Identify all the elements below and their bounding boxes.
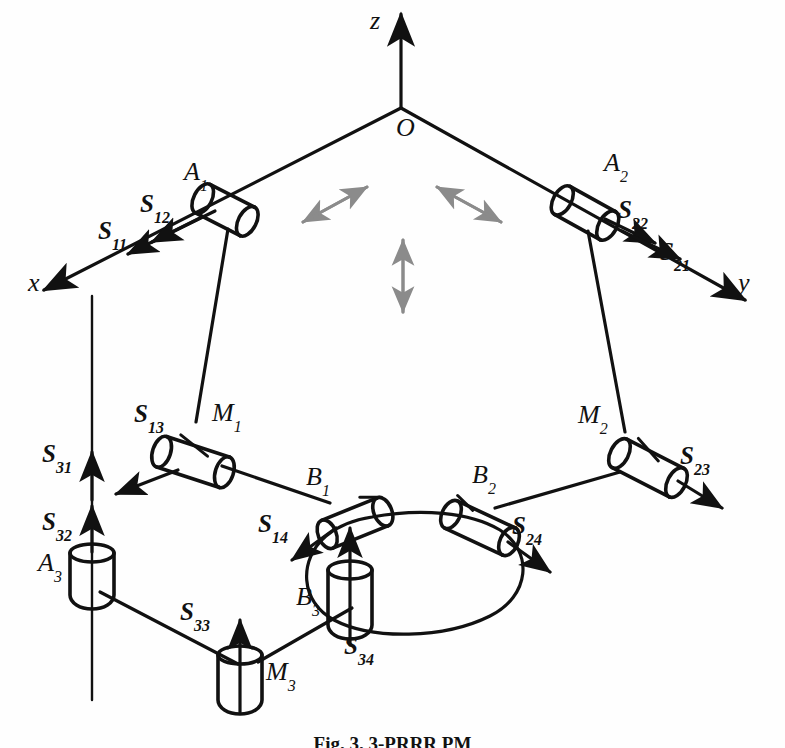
joint-label-a1: A1 — [184, 157, 208, 190]
screw-label-s23: S23 — [680, 442, 710, 474]
joint-label-b1: B1 — [306, 462, 330, 495]
joint-label-a2: A2 — [604, 148, 628, 181]
screw-label-s34: S34 — [344, 632, 374, 664]
screw-label-s31-sub: 31 — [56, 459, 72, 476]
joint-label-b1-base: B — [306, 462, 322, 491]
joint-label-m1-sub: 1 — [234, 418, 242, 435]
screw-label-s31: S31 — [42, 440, 72, 472]
joint-label-a1-base: A — [184, 157, 200, 186]
screw-label-s32-base: S — [42, 508, 56, 535]
joint-label-m3-base: M — [266, 657, 288, 686]
screw-label-s23-sub: 23 — [694, 461, 710, 478]
screw-label-s32-sub: 32 — [56, 527, 72, 544]
screw-label-s12: S12 — [140, 190, 170, 222]
screw-label-s13-base: S — [134, 400, 148, 427]
figure-3-prrr-pm: x y z O A1 A2 A3 M1 M2 M3 B1 B2 B3 S11 S… — [0, 0, 785, 748]
screw-label-s11-base: S — [98, 217, 112, 244]
link-a1-m1 — [196, 229, 228, 422]
screw-label-s13-sub: 13 — [148, 419, 164, 436]
screw-arrow-s13 — [116, 470, 178, 494]
mechanism-diagram — [0, 0, 785, 748]
joint-label-m3-sub: 3 — [288, 677, 296, 694]
joint-label-a3: A3 — [38, 548, 62, 581]
axis-label-x: x — [28, 268, 40, 298]
joint-label-m1-base: M — [212, 398, 234, 427]
screw-label-s34-base: S — [344, 632, 358, 659]
joint-label-m2-sub: 2 — [600, 420, 608, 437]
screw-label-s21-sub: 21 — [674, 257, 690, 274]
screw-label-s24: S24 — [512, 512, 542, 544]
axis-y — [401, 108, 745, 300]
origin-label-o: O — [396, 113, 415, 143]
dof-arrow-left — [303, 187, 367, 222]
screw-label-s23-base: S — [680, 442, 694, 469]
joint-label-m2-base: M — [578, 400, 600, 429]
screw-label-s12-sub: 12 — [154, 209, 170, 226]
axis-label-z: z — [370, 6, 380, 36]
screw-label-s32: S32 — [42, 508, 72, 540]
joint-label-a3-sub: 3 — [54, 568, 62, 585]
screw-label-s33: S33 — [180, 598, 210, 630]
screw-label-s14-base: S — [258, 510, 272, 537]
joint-label-b3: B3 — [296, 582, 320, 615]
screw-label-s22: S22 — [618, 196, 648, 228]
joint-label-a1-sub: 1 — [200, 177, 208, 194]
joint-label-b3-sub: 3 — [312, 602, 320, 619]
revolute-joint-m1 — [148, 428, 240, 490]
figure-caption: Fig. 3. 3-PRRR PM — [0, 733, 785, 748]
link-m2-b2 — [495, 472, 620, 508]
dof-arrow-right — [437, 187, 501, 222]
joint-label-b1-sub: 1 — [322, 482, 330, 499]
joint-label-a3-base: A — [38, 548, 54, 577]
prismatic-joint-a2 — [547, 182, 624, 244]
joint-label-m1: M1 — [212, 398, 242, 431]
joint-label-b3-base: B — [296, 582, 312, 611]
screw-label-s22-sub: 22 — [632, 215, 648, 232]
joint-label-a2-base: A — [604, 148, 620, 177]
screw-label-s13: S13 — [134, 400, 164, 432]
joint-label-b2-base: B — [472, 460, 488, 489]
figure-caption-text: Fig. 3. 3-PRRR PM — [314, 733, 472, 748]
screw-label-s14-sub: 14 — [272, 529, 288, 546]
screw-arrow-s23 — [678, 481, 722, 508]
joint-label-b2-sub: 2 — [488, 480, 496, 497]
screw-label-s31-base: S — [42, 440, 56, 467]
screw-label-s34-sub: 34 — [358, 651, 374, 668]
screw-label-s11-sub: 11 — [112, 236, 127, 253]
revolute-joint-m3 — [218, 620, 262, 714]
screw-label-s24-base: S — [512, 512, 526, 539]
joint-label-m3: M3 — [266, 657, 296, 690]
screw-label-s21: S21 — [660, 238, 690, 270]
screw-label-s33-base: S — [180, 598, 194, 625]
screw-label-s11: S11 — [98, 217, 127, 249]
screw-label-s14: S14 — [258, 510, 288, 542]
joint-label-m2: M2 — [578, 400, 608, 433]
screw-label-s22-base: S — [618, 196, 632, 223]
screw-label-s21-base: S — [660, 238, 674, 265]
screw-label-s24-sub: 24 — [526, 531, 542, 548]
joint-label-a2-sub: 2 — [620, 168, 628, 185]
screw-label-s12-base: S — [140, 190, 154, 217]
screw-label-s33-sub: 33 — [194, 617, 210, 634]
joint-label-b2: B2 — [472, 460, 496, 493]
axis-label-y: y — [738, 268, 750, 298]
